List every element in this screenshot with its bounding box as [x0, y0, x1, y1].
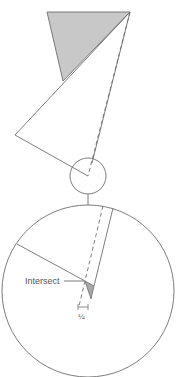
- shaded-triangle: [47, 12, 130, 81]
- dimension-label: ¼: [78, 312, 85, 321]
- magnified-right-edge: [94, 208, 113, 286]
- small-shaded-wedge: [85, 281, 94, 299]
- diagram-canvas: Intersect ¼: [0, 0, 176, 377]
- intersect-label: Intersect: [25, 276, 60, 286]
